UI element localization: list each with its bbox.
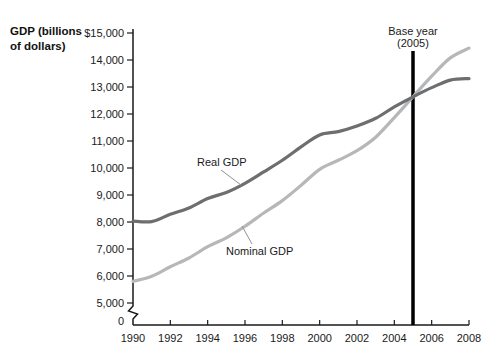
y-tick-label: 6,000 [96,270,124,282]
x-tick-label: 2008 [457,332,481,344]
y-tick-label: 8,000 [96,216,124,228]
y-tick-label: 5,000 [96,297,124,309]
nominal-gdp-series-label: Nominal GDP [226,245,293,258]
y-axis-title: GDP (billions of dollars) [10,24,82,54]
y-tick-label: 0 [118,315,124,327]
base-year-annotation: Base year (2005) [373,25,453,49]
x-tick-label: 2006 [419,332,443,344]
nominal-gdp-pointer-line [242,226,252,244]
gdp-comparison-chart: $15,00014,00013,00012,00011,00010,0009,0… [0,0,500,363]
x-tick-label: 2002 [345,332,369,344]
y-axis-title-line2: of dollars) [10,39,82,54]
y-tick-label: $15,000 [84,27,124,39]
y-tick-label: 11,000 [91,135,124,147]
x-tick-label: 1992 [158,332,182,344]
y-tick-label: 13,000 [90,81,124,93]
x-tick-label: 1996 [233,332,257,344]
y-tick-label: 10,000 [90,162,124,174]
x-tick-label: 1990 [121,332,145,344]
y-tick-label: 9,000 [96,189,124,201]
chart-canvas: $15,00014,00013,00012,00011,00010,0009,0… [0,0,500,363]
x-tick-label: 2000 [307,332,331,344]
x-tick-label: 2004 [382,332,406,344]
y-axis-title-line1: GDP (billions [10,24,82,39]
y-tick-label: 14,000 [90,54,124,66]
real-gdp-series-label: Real GDP [197,156,247,169]
base-year-annotation-line2: (2005) [373,37,453,49]
y-tick-label: 12,000 [90,108,124,120]
real-gdp-curve [133,79,469,222]
base-year-annotation-line1: Base year [373,25,453,37]
y-tick-label: 7,000 [96,243,124,255]
nominal-gdp-curve [133,48,469,281]
real-gdp-pointer-line [221,170,241,185]
x-tick-label: 1998 [270,332,294,344]
x-tick-label: 1994 [195,332,219,344]
